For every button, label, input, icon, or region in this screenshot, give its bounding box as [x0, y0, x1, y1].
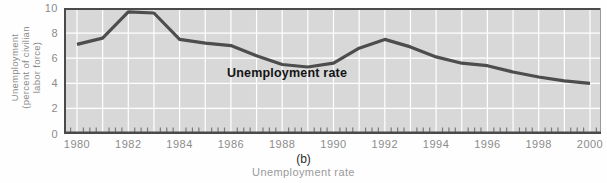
- x-tick-label: 1998: [525, 138, 551, 150]
- x-tick-label: 1990: [320, 138, 346, 150]
- x-tick-label: 1984: [166, 138, 192, 150]
- x-tick-label: 1988: [269, 138, 295, 150]
- x-tick-label: 1992: [372, 138, 398, 150]
- y-tick-label: 10: [0, 1, 58, 15]
- y-tick-label: 6: [0, 51, 58, 65]
- figure-caption: Unemployment rate: [0, 166, 607, 178]
- x-tick-label: 1994: [423, 138, 449, 150]
- y-tick-label: 8: [0, 26, 58, 40]
- x-tick-label: 1982: [115, 138, 141, 150]
- unemployment-rate-figure: Unemployment (percent of civilian labor …: [0, 0, 607, 183]
- x-tick-label: 1996: [474, 138, 500, 150]
- panel-label: (b): [0, 152, 607, 166]
- y-tick-label: 0: [0, 127, 58, 141]
- y-tick-label: 4: [0, 76, 58, 90]
- x-tick-label: 2000: [577, 138, 603, 150]
- x-tick-label: 1980: [64, 138, 90, 150]
- series-label: Unemployment rate: [227, 66, 347, 80]
- x-tick-label: 1986: [218, 138, 244, 150]
- y-tick-label: 2: [0, 101, 58, 115]
